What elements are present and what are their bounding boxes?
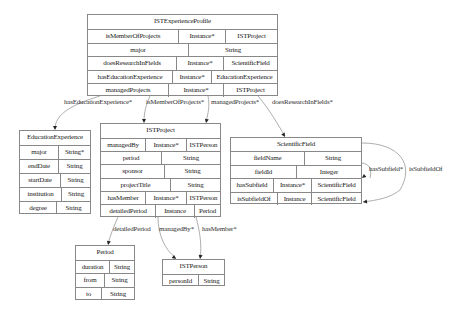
edge-label-hasmember: hasMember* [202, 225, 237, 233]
edge-label-issubfieldof: isSubfieldOf [409, 165, 442, 173]
field-name: period [101, 152, 161, 164]
field-target: ISTPerson [186, 139, 220, 151]
field-type: String [304, 152, 361, 164]
field-type: String [188, 44, 277, 57]
field-type: Instance* [172, 71, 211, 84]
field-target: ScientificField [223, 57, 277, 70]
field-target: ISTPerson [186, 192, 220, 204]
node-title: Period [76, 246, 134, 260]
field-name: fieldId [231, 166, 296, 178]
node-title: ISTExperienceProfile [88, 15, 277, 29]
field-type: String [104, 274, 134, 287]
node-istperson[interactable]: ISTPerson personIdString [162, 259, 225, 286]
field-name: from [76, 274, 104, 287]
field-name: personId [163, 275, 198, 287]
field-type: String [170, 179, 220, 191]
field-name: sponsor [101, 165, 164, 177]
field-name: managedBy [101, 139, 145, 151]
field-name: detailedPeriod [101, 205, 155, 217]
field-type: String [109, 261, 134, 274]
field-type: Instance* [273, 179, 311, 191]
field-type: String [61, 188, 90, 201]
field-type: Instance [277, 193, 311, 205]
field-target: ISTProject [223, 84, 277, 97]
edge-label-doesresearchinfields: doesResearchInFields* [272, 98, 333, 106]
node-title: ScientificField [231, 138, 361, 151]
node-title: EducationExperience [20, 131, 90, 145]
field-name: hasMember [101, 192, 145, 204]
node-istproject[interactable]: ISTProject managedByInstance*ISTPerson p… [100, 123, 221, 217]
edge-managedby [158, 217, 176, 258]
field-target: EducationExperience [211, 71, 277, 84]
field-type: Instance* [178, 30, 225, 43]
field-type: Instance [155, 205, 194, 217]
field-name: doesResearchInFields [88, 57, 176, 70]
field-type: String [198, 275, 224, 287]
field-name: hasEducationExperience [88, 71, 172, 84]
field-name: managedProjects [88, 84, 168, 97]
field-name: startDate [20, 174, 60, 187]
field-type: String [60, 174, 90, 187]
edge-label-hassubfield: hasSubfield* [369, 165, 403, 173]
field-type: String [164, 165, 220, 177]
field-name: major [88, 44, 188, 57]
field-type: String [101, 288, 134, 300]
field-target: ISTProject [225, 30, 277, 43]
arrowhead-icon [362, 174, 366, 178]
edge-managedprojects [206, 96, 209, 122]
field-name: endDate [20, 160, 58, 173]
field-name: duration [76, 261, 109, 274]
edge-label-detailedperiod: detailedPeriod [113, 225, 151, 233]
edge-hasmember [196, 217, 201, 258]
field-name: major [20, 146, 58, 159]
arrowhead-icon [363, 199, 367, 203]
node-title: ISTProject [101, 124, 220, 138]
field-type: Instance* [145, 139, 186, 151]
edge-label-ismemberofprojects: isMemberOfProjects* [146, 98, 204, 106]
uml-diagram-canvas: ISTExperienceProfile isMemberOfProjectsI… [0, 0, 465, 317]
field-name: to [76, 288, 101, 300]
field-type: Instance* [145, 192, 186, 204]
field-name: institution [20, 188, 61, 201]
field-target: Period [194, 205, 220, 217]
field-target: ScientificField [311, 193, 361, 205]
field-name: fieldName [231, 152, 304, 164]
node-educationexperience[interactable]: EducationExperience majorString* endDate… [19, 130, 91, 214]
node-scientificfield[interactable]: ScientificField fieldNameString fieldIdI… [230, 137, 362, 204]
edge-label-haseducationexperience: hasEducationExperience* [64, 98, 132, 106]
field-type: String [58, 160, 90, 173]
node-istexperienceprofile[interactable]: ISTExperienceProfile isMemberOfProjectsI… [87, 14, 278, 96]
field-name: isSubfieldOf [231, 193, 277, 205]
node-period[interactable]: Period durationString fromString toStrin… [75, 245, 135, 300]
edge-label-managedprojects: managedProjects* [211, 98, 259, 106]
field-target: ScientificField [311, 179, 361, 191]
field-type: String [56, 202, 90, 214]
field-name: projectTitle [101, 179, 170, 191]
edge-label-managedby: managedBy* [159, 225, 194, 233]
field-type: String* [58, 146, 90, 159]
field-name: hasSubfield [231, 179, 273, 191]
field-name: degree [20, 202, 56, 214]
field-type: Instance* [176, 57, 223, 70]
node-title: ISTPerson [163, 260, 224, 274]
field-name: isMemberOfProjects [88, 30, 178, 43]
field-type: Instance* [168, 84, 223, 97]
field-type: Integer [296, 166, 361, 178]
field-type: String [161, 152, 220, 164]
